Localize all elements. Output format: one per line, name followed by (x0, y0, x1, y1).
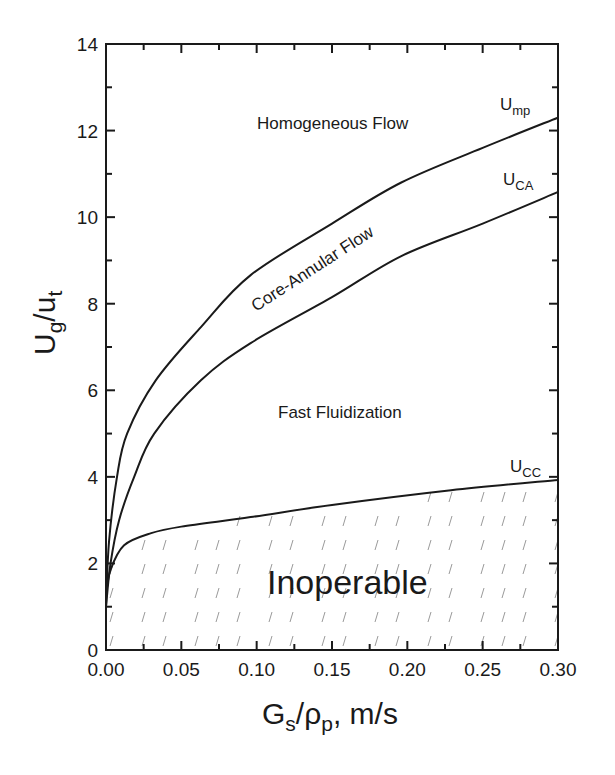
y-tick-label: 12 (77, 121, 98, 142)
ump-label: Ump (500, 95, 530, 118)
uca-label: UCA (503, 170, 534, 193)
inoperable-label: Inoperable (267, 563, 428, 601)
ucc-label: UCC (510, 457, 541, 480)
ump-curve (106, 118, 558, 607)
x-tick-label: 0.10 (238, 659, 275, 680)
y-tick-label: 2 (87, 553, 98, 574)
x-tick-label: 0.15 (314, 659, 351, 680)
curves (106, 118, 558, 607)
regime-chart: 0.000.050.100.150.200.250.3002468101214 … (0, 0, 615, 775)
y-tick-label: 6 (87, 380, 98, 401)
x-tick-label: 0.30 (540, 659, 577, 680)
plot-frame (106, 44, 558, 650)
fast-fluidization-label: Fast Fluidization (278, 403, 402, 422)
y-axis-title: Ug/ut (28, 291, 66, 355)
x-tick-label: 0.00 (88, 659, 125, 680)
y-tick-label: 8 (87, 294, 98, 315)
x-tick-label: 0.20 (389, 659, 426, 680)
y-tick-label: 4 (87, 467, 98, 488)
y-tick-label: 14 (77, 34, 99, 55)
y-tick-label: 0 (87, 640, 98, 661)
y-tick-label: 10 (77, 207, 98, 228)
x-tick-label: 0.05 (163, 659, 200, 680)
homogeneous-flow-label: Homogeneous Flow (257, 114, 409, 133)
x-tick-label: 0.25 (464, 659, 501, 680)
x-axis-title: Gs/ρp, m/s (262, 697, 398, 735)
